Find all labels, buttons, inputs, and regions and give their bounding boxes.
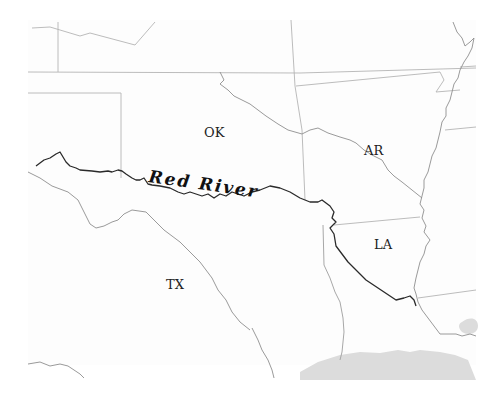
state-label-ar: AR [363,143,384,158]
state-label-tx: TX [166,277,185,292]
state-label-ok: OK [204,125,225,140]
map-canvas: Red River OK AR LA TX [0,0,504,399]
state-label-la: LA [374,237,393,252]
